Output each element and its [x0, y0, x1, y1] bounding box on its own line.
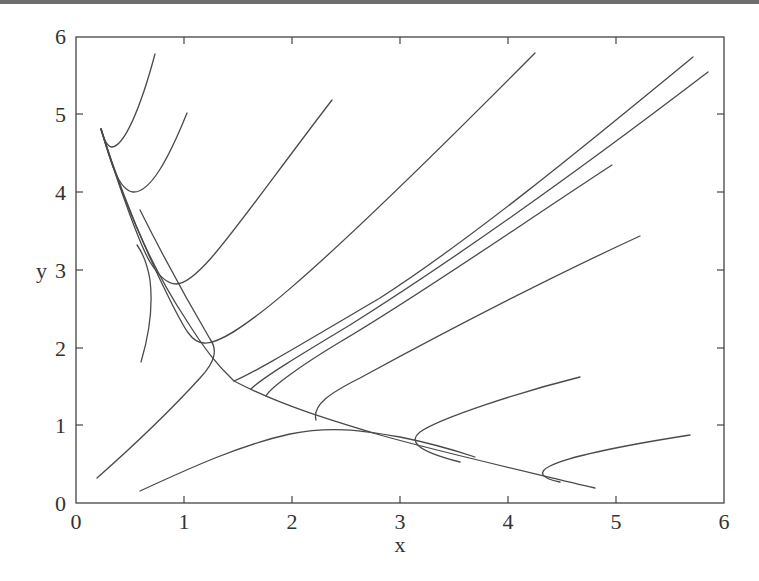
svg-text:5: 5 — [611, 509, 622, 534]
phase-plot: 0 1 2 3 4 5 6 0 1 2 3 4 5 6 x y — [0, 0, 759, 581]
trajectory-5 — [101, 57, 693, 381]
svg-text:1: 1 — [55, 413, 66, 438]
trajectories — [97, 53, 708, 491]
svg-text:0: 0 — [71, 509, 82, 534]
svg-text:3: 3 — [55, 258, 66, 283]
trajectory-6 — [251, 72, 708, 389]
svg-text:1: 1 — [179, 509, 190, 534]
y-tick-labels: 0 1 2 3 4 5 6 — [55, 24, 66, 516]
x-tick-labels: 0 1 2 3 4 5 6 — [71, 509, 730, 534]
trajectory-1 — [101, 54, 155, 147]
left-curve — [97, 210, 214, 478]
trajectory-4 — [101, 53, 535, 343]
svg-text:4: 4 — [55, 180, 66, 205]
y-ticks — [76, 114, 724, 425]
svg-text:5: 5 — [55, 102, 66, 127]
trajectory-7 — [266, 165, 612, 396]
trajectory-10 — [543, 435, 690, 482]
trajectory-2 — [101, 113, 187, 192]
plot-frame — [76, 37, 724, 503]
bottom-curve — [140, 430, 475, 491]
svg-text:4: 4 — [503, 509, 514, 534]
trajectory-9 — [415, 377, 580, 462]
svg-text:6: 6 — [55, 24, 66, 49]
svg-text:6: 6 — [719, 509, 730, 534]
x-ticks — [184, 37, 616, 503]
svg-text:3: 3 — [395, 509, 406, 534]
svg-text:2: 2 — [287, 509, 298, 534]
x-axis-label: x — [395, 532, 406, 557]
svg-text:0: 0 — [55, 491, 66, 516]
svg-text:2: 2 — [55, 336, 66, 361]
y-axis-label: y — [36, 258, 47, 283]
thin-curve — [137, 245, 151, 362]
